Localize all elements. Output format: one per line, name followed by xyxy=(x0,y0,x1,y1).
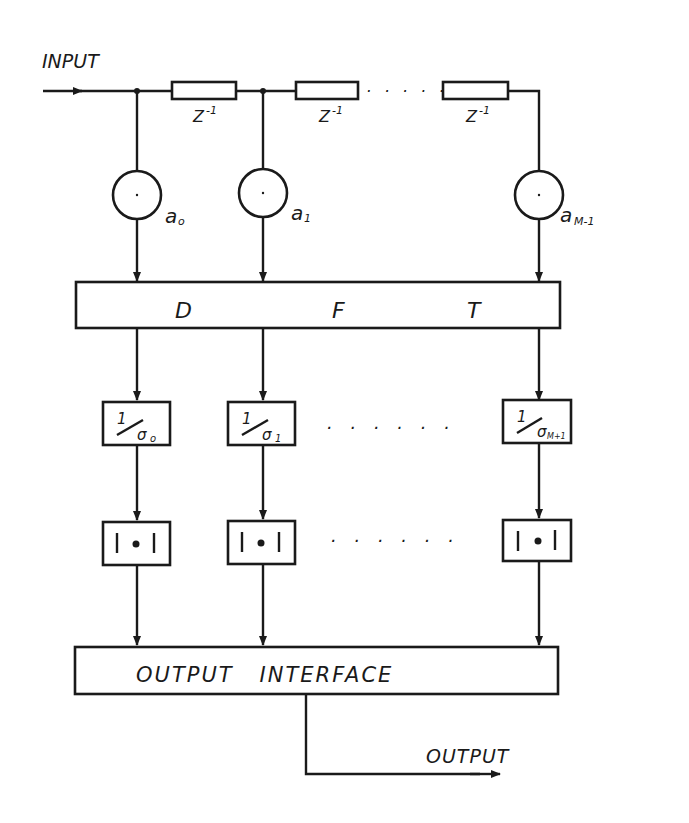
svg-text:o: o xyxy=(178,215,185,228)
delay-line-end xyxy=(508,91,539,172)
magnitude-m xyxy=(503,520,571,561)
dft-filter-bank-diagram: INPUT · · · · · · Z -1 Z -1 Z -1 a o a 1 xyxy=(0,0,689,823)
svg-text:1: 1 xyxy=(117,410,127,428)
dft-letter-d: D xyxy=(175,298,192,323)
svg-text:-1: -1 xyxy=(332,104,343,117)
svg-text:-1: -1 xyxy=(479,104,490,117)
output-interface-label: OUTPUT INTERFACE xyxy=(136,663,393,687)
multiplier-1: a 1 xyxy=(239,169,311,225)
delay-block-3 xyxy=(443,82,508,99)
svg-text:1: 1 xyxy=(275,433,281,444)
svg-text:σ: σ xyxy=(262,426,272,444)
svg-text:Z: Z xyxy=(465,107,478,126)
svg-text:M-1: M-1 xyxy=(574,215,594,228)
svg-text:a: a xyxy=(165,204,177,228)
magnitude-ellipsis: · · · · · · xyxy=(330,530,459,551)
dft-letter-t: T xyxy=(467,298,482,323)
svg-text:a: a xyxy=(560,203,572,227)
multiplier-m-1: a M-1 xyxy=(515,171,594,228)
delay-label-2: Z -1 xyxy=(318,104,343,126)
normalizer-1: 1 σ 1 xyxy=(228,402,295,445)
normalizer-ellipsis: · · · · · · xyxy=(326,417,455,438)
delay-label-1: Z -1 xyxy=(192,104,217,126)
delay-label-3: Z -1 xyxy=(465,104,490,126)
delay-block-1 xyxy=(172,82,236,99)
input-label: INPUT xyxy=(42,50,100,72)
delay-block-2 xyxy=(296,82,358,99)
svg-text:a: a xyxy=(291,201,303,225)
svg-text:Z: Z xyxy=(192,107,205,126)
normalizer-m: 1 σ M+1 xyxy=(503,400,571,443)
svg-text:M+1: M+1 xyxy=(547,432,566,441)
svg-text:-1: -1 xyxy=(206,104,217,117)
svg-text:σ: σ xyxy=(137,426,147,444)
magnitude-1 xyxy=(228,521,295,564)
output-label: OUTPUT xyxy=(426,745,510,767)
svg-text:1: 1 xyxy=(304,212,311,225)
normalizer-0: 1 σ o xyxy=(103,402,170,445)
svg-text:1: 1 xyxy=(517,408,527,426)
dft-block xyxy=(76,282,560,328)
multiplier-0: a o xyxy=(113,171,185,228)
svg-text:o: o xyxy=(150,433,156,444)
dft-letter-f: F xyxy=(332,298,345,323)
magnitude-0 xyxy=(103,522,170,565)
svg-text:σ: σ xyxy=(537,423,547,441)
svg-text:Z: Z xyxy=(318,107,331,126)
svg-text:1: 1 xyxy=(242,410,252,428)
